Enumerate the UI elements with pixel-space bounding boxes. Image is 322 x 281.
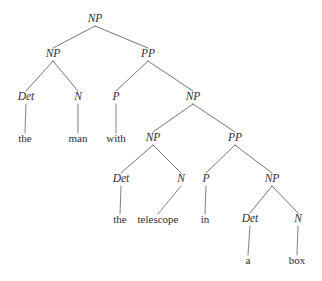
tree-node-np-1: NP	[45, 47, 61, 59]
tree-node-np-root: NP	[87, 12, 103, 24]
tree-node-n-1: N	[73, 90, 83, 102]
tree-edge-pp-1-to-np-2	[148, 61, 193, 91]
tree-edge-np-4-to-n-3	[272, 186, 298, 213]
tree-edge-n-2-to-w-telescope	[158, 186, 181, 214]
tree-node-np-3: NP	[145, 131, 161, 143]
tree-edge-pp-2-to-np-4	[235, 145, 272, 173]
tree-edge-np-2-to-pp-2	[193, 104, 235, 132]
tree-edge-np-3-to-det-2	[121, 145, 153, 173]
tree-leaf-w-in: in	[201, 213, 210, 225]
tree-edge-det-1-to-w-the-1	[25, 104, 26, 133]
tree-node-np-4: NP	[264, 172, 280, 184]
tree-edge-pp-2-to-p-2	[206, 145, 235, 173]
tree-edge-n-3-to-w-box	[297, 226, 298, 255]
tree-node-pp-2: PP	[227, 131, 242, 143]
tree-edge-np-root-to-np-1	[53, 26, 95, 48]
tree-node-layer: NPNPPPDetNPNPthemanwithNPPPDetNPNPthetel…	[17, 12, 306, 266]
tree-leaf-w-with: with	[106, 132, 126, 144]
tree-node-n-2: N	[176, 172, 186, 184]
tree-edge-np-1-to-n-1	[53, 61, 78, 91]
parse-tree-diagram: NPNPPPDetNPNPthemanwithNPPPDetNPNPthetel…	[0, 0, 322, 281]
tree-leaf-w-telescope: telescope	[138, 213, 179, 225]
tree-edge-np-2-to-np-3	[153, 104, 193, 132]
tree-node-p-2: P	[201, 172, 209, 184]
tree-canvas: NPNPPPDetNPNPthemanwithNPPPDetNPNPthetel…	[0, 0, 322, 281]
tree-leaf-w-man: man	[69, 132, 88, 144]
tree-edge-np-4-to-det-3	[250, 186, 272, 213]
tree-edge-det-2-to-w-the-2	[120, 186, 121, 214]
tree-leaf-w-box: box	[289, 254, 306, 266]
tree-edge-pp-1-to-p-1	[116, 61, 148, 91]
tree-edge-det-3-to-w-a	[248, 226, 250, 255]
tree-edge-np-3-to-n-2	[153, 145, 181, 173]
tree-node-p-1: P	[111, 90, 119, 102]
tree-node-det-3: Det	[241, 212, 259, 224]
tree-node-pp-1: PP	[140, 47, 155, 59]
tree-leaf-w-a: a	[246, 254, 251, 266]
tree-edge-np-root-to-pp-1	[95, 26, 148, 48]
tree-edge-np-1-to-det-1	[26, 61, 53, 91]
tree-leaf-w-the-2: the	[113, 213, 127, 225]
tree-node-det-2: Det	[112, 172, 130, 184]
tree-node-det-1: Det	[17, 90, 35, 102]
tree-leaf-w-the-1: the	[18, 132, 32, 144]
tree-node-np-2: NP	[185, 90, 201, 102]
tree-edge-p-2-to-w-in	[205, 186, 206, 214]
tree-node-n-3: N	[293, 212, 303, 224]
